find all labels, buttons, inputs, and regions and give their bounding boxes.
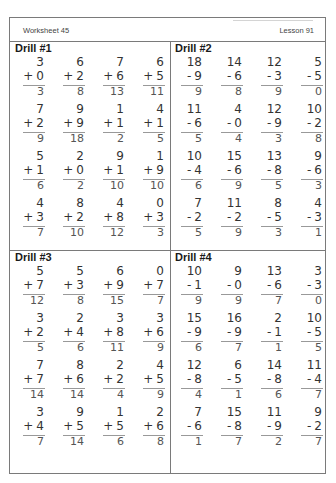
operand-bottom-value: 7 (156, 278, 164, 292)
operand-bottom: +5 (60, 419, 84, 433)
operand-bottom: +2 (20, 116, 44, 130)
arithmetic-problem: 9+110 (90, 149, 130, 196)
operator-sign: + (143, 116, 153, 130)
problem-row: 15-9616-972-1110-55 (168, 311, 328, 358)
operand-bottom-value: 6 (274, 278, 282, 292)
operator-sign: + (63, 69, 73, 83)
operand-top: 14 (267, 358, 282, 372)
operand-top: 9 (116, 149, 124, 163)
arithmetic-problem: 13-85 (248, 149, 288, 196)
operand-bottom: -5 (264, 210, 282, 224)
answer: 8 (77, 85, 84, 99)
operand-top: 4 (156, 358, 164, 372)
operator-sign: + (63, 372, 73, 386)
answer: 7 (275, 294, 282, 308)
arithmetic-problem: 4+15 (130, 102, 170, 149)
operand-bottom: -9 (224, 325, 242, 339)
operand-bottom-value: 2 (234, 210, 242, 224)
operand-bottom-value: 2 (36, 116, 44, 130)
operand-bottom-value: 2 (76, 69, 84, 83)
operand-top: 11 (267, 405, 282, 419)
operand-bottom-value: 6 (314, 163, 322, 177)
operand-bottom: -9 (264, 116, 282, 130)
answer: 11 (150, 85, 164, 99)
operator-sign: + (143, 372, 153, 386)
answer: 7 (235, 341, 242, 355)
operator-sign: + (143, 163, 153, 177)
operand-bottom-value: 6 (156, 325, 164, 339)
operand-bottom-value: 9 (194, 69, 202, 83)
arithmetic-problem: 9-63 (288, 149, 328, 196)
answer: 12 (30, 294, 44, 308)
operand-bottom: -5 (304, 325, 322, 339)
arithmetic-problem: 5-50 (288, 55, 328, 102)
operand-top: 7 (194, 405, 202, 419)
answer: 0 (315, 85, 322, 99)
operand-top: 9 (314, 405, 322, 419)
operand-bottom-value: 5 (314, 325, 322, 339)
operator-sign: - (267, 372, 271, 386)
answer: 6 (37, 179, 44, 193)
operand-top: 15 (187, 311, 202, 325)
answer: 6 (77, 341, 84, 355)
operator-sign: + (63, 163, 73, 177)
arithmetic-problem: 4+59 (130, 358, 170, 405)
operand-bottom-value: 7 (36, 372, 44, 386)
operand-top: 2 (156, 405, 164, 419)
answer: 7 (37, 226, 44, 240)
answer: 3 (275, 226, 282, 240)
operand-bottom: -0 (224, 278, 242, 292)
operand-top: 3 (36, 405, 44, 419)
answer: 9 (37, 132, 44, 146)
answer: 5 (195, 132, 202, 146)
answer: 8 (157, 435, 164, 449)
answer: 10 (110, 179, 124, 193)
operand-top: 3 (156, 311, 164, 325)
operand-bottom-value: 0 (234, 278, 242, 292)
answer: 8 (315, 132, 322, 146)
answer: 1 (275, 341, 282, 355)
operand-bottom-value: 2 (314, 419, 322, 433)
operator-sign: - (187, 210, 191, 224)
answer: 3 (37, 85, 44, 99)
answer: 4 (117, 388, 124, 402)
worksheet: Worksheet 45 Lesson 91 Drill #1 3+036+28… (9, 17, 326, 474)
operand-bottom-value: 9 (274, 116, 282, 130)
operator-sign: - (187, 116, 191, 130)
operand-top: 6 (76, 55, 84, 69)
operand-bottom-value: 5 (156, 372, 164, 386)
arithmetic-problem: 12-39 (248, 55, 288, 102)
operand-bottom: -6 (224, 163, 242, 177)
operand-bottom: +9 (140, 163, 164, 177)
operand-bottom-value: 5 (314, 69, 322, 83)
operator-sign: - (227, 116, 231, 130)
answer: 1 (315, 226, 322, 240)
arithmetic-problem: 9-27 (288, 405, 328, 452)
answer: 6 (195, 341, 202, 355)
problem-row: 5+7125+386+9150+77 (10, 264, 170, 311)
arithmetic-problem: 10-55 (288, 311, 328, 358)
arithmetic-problem: 7+714 (10, 358, 50, 405)
answer: 9 (235, 226, 242, 240)
arithmetic-problem: 3+03 (10, 55, 50, 102)
operand-bottom: -2 (304, 419, 322, 433)
worksheet-header: Worksheet 45 Lesson 91 (10, 18, 325, 42)
arithmetic-problem: 6+915 (90, 264, 130, 311)
operand-bottom: +1 (20, 163, 44, 177)
answer: 0 (315, 294, 322, 308)
answer: 7 (157, 294, 164, 308)
operand-bottom: -8 (264, 372, 282, 386)
operand-top: 1 (116, 405, 124, 419)
operand-top: 15 (227, 405, 242, 419)
operator-sign: + (63, 419, 73, 433)
operand-bottom: +2 (100, 372, 124, 386)
operand-top: 4 (234, 102, 242, 116)
problem-grid: 18-9914-6812-395-5011-654-0412-9310-2810… (168, 55, 328, 243)
operand-top: 4 (116, 196, 124, 210)
operand-top: 9 (76, 102, 84, 116)
operand-bottom-value: 6 (76, 372, 84, 386)
arithmetic-problem: 14-86 (248, 358, 288, 405)
operand-bottom: -5 (304, 69, 322, 83)
operand-bottom-value: 8 (194, 372, 202, 386)
operator-sign: + (23, 163, 33, 177)
